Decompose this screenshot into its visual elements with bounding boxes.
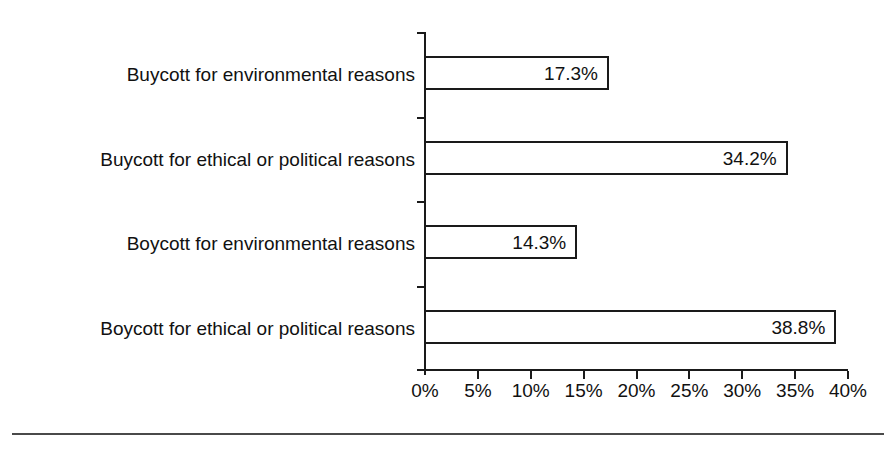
bar-value-label: 14.3% xyxy=(512,233,575,252)
value-axis-tick-label: 30% xyxy=(723,381,761,400)
bar-value-label: 34.2% xyxy=(723,149,786,168)
value-axis-tick xyxy=(530,371,532,379)
value-axis-tick-label: 10% xyxy=(512,381,550,400)
bar-buycott-ethical-political: 34.2% xyxy=(424,141,788,175)
category-axis-tick xyxy=(417,286,425,288)
footer-divider xyxy=(12,433,884,435)
bar-value-label: 38.8% xyxy=(771,318,834,337)
bar-boycott-environmental: 14.3% xyxy=(424,225,577,259)
value-axis-tick-label: 35% xyxy=(776,381,814,400)
category-label-boycott-environmental: Boycott for environmental reasons xyxy=(127,234,415,253)
bar-buycott-environmental: 17.3% xyxy=(424,56,609,90)
value-axis-tick xyxy=(741,371,743,379)
category-label-boycott-ethical-political: Boycott for ethical or political reasons xyxy=(100,319,415,338)
value-axis-tick xyxy=(424,363,426,375)
value-axis-tick-label: 20% xyxy=(617,381,655,400)
category-axis-tick xyxy=(417,117,425,119)
value-axis-tick-label: 5% xyxy=(464,381,491,400)
value-axis-tick xyxy=(636,371,638,379)
value-axis-tick-label: 40% xyxy=(829,381,867,400)
value-axis-tick xyxy=(688,371,690,379)
category-axis-tick xyxy=(417,32,425,34)
value-axis-tick xyxy=(477,371,479,379)
value-axis-tick-label: 15% xyxy=(565,381,603,400)
bar-chart-figure: Buycott for environmental reasons Buycot… xyxy=(0,0,896,452)
value-axis-tick xyxy=(847,371,849,379)
bar-value-label: 17.3% xyxy=(544,64,607,83)
bar-boycott-ethical-political: 38.8% xyxy=(424,310,836,344)
value-axis-tick-label: 25% xyxy=(670,381,708,400)
value-axis-tick xyxy=(794,371,796,379)
category-axis-tick xyxy=(417,201,425,203)
value-axis-tick-label: 0% xyxy=(411,381,438,400)
category-label-buycott-ethical-political: Buycott for ethical or political reasons xyxy=(100,150,415,169)
value-axis-tick xyxy=(583,371,585,379)
category-label-buycott-environmental: Buycott for environmental reasons xyxy=(127,65,415,84)
